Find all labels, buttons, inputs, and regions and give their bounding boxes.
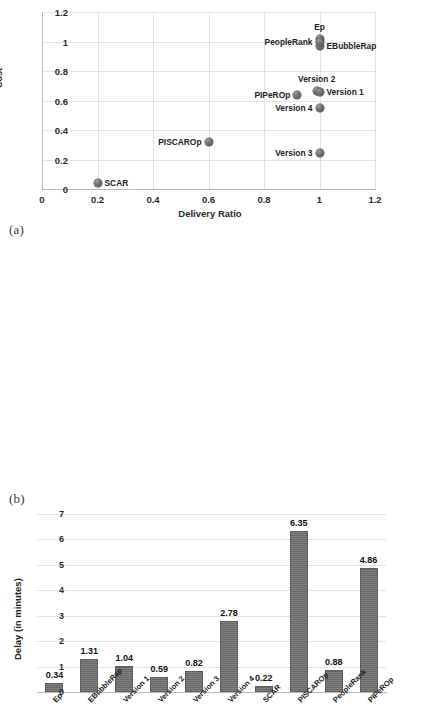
scatter-point-label: EBubbleRap: [327, 41, 377, 51]
scatter-point-label: PeopleRank: [265, 37, 313, 47]
figure-a-scatter: Cost Delivery Ratio 00.20.40.60.811.200.…: [0, 0, 447, 255]
bar-y-tick-label: 7: [14, 509, 64, 519]
scatter-gridline-horizontal: [42, 160, 375, 161]
scatter-y-tick-label: 0.8: [8, 66, 68, 77]
scatter-gridline-horizontal: [42, 71, 375, 72]
scatter-y-tick-label: 0.4: [8, 125, 68, 136]
scatter-y-tick-label: 0: [8, 184, 68, 195]
bar-gridline-horizontal: [37, 590, 386, 591]
bar-value-label: 4.86: [360, 555, 378, 565]
bar-value-label: 1.04: [115, 653, 133, 663]
bar: [220, 621, 238, 692]
scatter-point-label: Version 1: [327, 87, 364, 97]
scatter-point: [293, 91, 301, 99]
bar-y-tick-label: 5: [14, 560, 64, 570]
bar-value-label: 6.35: [290, 518, 308, 528]
scatter-point: [316, 104, 324, 112]
bar-value-label: 0.82: [185, 658, 203, 668]
scatter-point: [205, 138, 213, 146]
bar-value-label: 0.22: [255, 673, 273, 683]
scatter-y-tick-label: 0.2: [8, 154, 68, 165]
bar-gridline-horizontal: [37, 514, 386, 515]
scatter-gridline-horizontal: [42, 42, 375, 43]
scatter-point: [94, 179, 102, 187]
scatter-x-tick-label: 1.2: [355, 194, 395, 205]
scatter-point: [316, 38, 324, 46]
scatter-y-tick-label: 1.2: [8, 7, 68, 18]
scatter-x-tick-label: 0: [22, 194, 62, 205]
scatter-point-label: PIPeROp: [254, 90, 290, 100]
bar-gridline-horizontal: [37, 616, 386, 617]
scatter-x-tick-label: 0.6: [189, 194, 229, 205]
bar-y-tick-label: 6: [14, 534, 64, 544]
bar-value-label: 0.88: [325, 657, 343, 667]
scatter-x-axis-title: Delivery Ratio: [0, 208, 420, 219]
scatter-y-tick-label: 0.6: [8, 95, 68, 106]
scatter-y-axis-title: Cost: [0, 68, 4, 88]
scatter-point-label: Version 2: [298, 74, 335, 84]
scatter-y-tick-label: 1: [8, 36, 68, 47]
scatter-x-tick-label: 0.8: [244, 194, 284, 205]
bar-value-label: 1.31: [81, 646, 99, 656]
scatter-point-label: Version 3: [275, 148, 312, 158]
bar-value-label: 0.34: [46, 670, 64, 680]
scatter-x-axis-line: [42, 189, 376, 190]
scatter-point-label: SCAR: [105, 178, 129, 188]
bar-y-tick-label: 2: [14, 636, 64, 646]
bar-y-tick-label: 4: [14, 585, 64, 595]
scatter-point-label: PISCAROp: [158, 137, 201, 147]
bar-gridline-horizontal: [37, 565, 386, 566]
scatter-gridline-horizontal: [42, 101, 375, 102]
scatter-gridline-vertical: [375, 12, 376, 189]
bar-y-tick-label: 3: [14, 611, 64, 621]
scatter-plot-area: [42, 12, 375, 189]
scatter-point: [316, 88, 324, 96]
bar-gridline-horizontal: [37, 539, 386, 540]
subfigure-b-caption: (b): [9, 491, 25, 507]
scatter-point-label: Ep: [314, 22, 325, 32]
bar-value-label: 0.59: [150, 664, 168, 674]
scatter-x-tick-label: 0.4: [133, 194, 173, 205]
bar: [290, 531, 308, 692]
bar-value-label: 2.78: [220, 608, 238, 618]
scatter-point-label: Version 4: [275, 103, 312, 113]
scatter-x-tick-label: 1: [300, 194, 340, 205]
figure-b-bar: Delay (in minutes) 012345670.34Ep1.31EBu…: [0, 250, 447, 519]
bar-gridline-horizontal: [37, 641, 386, 642]
subfigure-a-caption: (a): [9, 222, 24, 238]
scatter-gridline-horizontal: [42, 130, 375, 131]
scatter-gridline-horizontal: [42, 12, 375, 13]
scatter-x-tick-label: 0.2: [78, 194, 118, 205]
scatter-point: [316, 149, 324, 157]
